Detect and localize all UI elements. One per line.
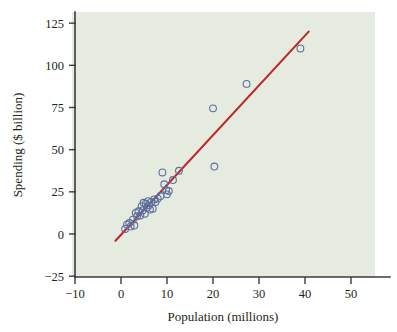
y-tick-label: 125: [45, 17, 64, 31]
y-tick-label: 100: [45, 59, 64, 73]
y-tick-label: 50: [52, 143, 65, 157]
y-axis-title: Spending ($ billion): [10, 93, 25, 198]
x-tick-label: 20: [207, 287, 220, 301]
y-tick-label: 25: [52, 185, 65, 199]
scatter-plot-figure: −250255075100125 −1001020304050 Populati…: [0, 0, 397, 332]
x-tick-label: 50: [345, 287, 358, 301]
y-tick-label: 75: [52, 101, 65, 115]
x-tick-label: 0: [118, 287, 124, 301]
plot-canvas: −250255075100125 −1001020304050 Populati…: [0, 0, 397, 332]
x-tick-label: 40: [299, 287, 312, 301]
x-tick-label: −10: [65, 287, 85, 301]
y-tick-label: 0: [58, 228, 64, 242]
x-axis-title: Population (millions): [168, 309, 279, 324]
y-tick-label: −25: [44, 270, 64, 284]
x-tick-label: 10: [161, 287, 174, 301]
x-tick-label: 30: [253, 287, 266, 301]
